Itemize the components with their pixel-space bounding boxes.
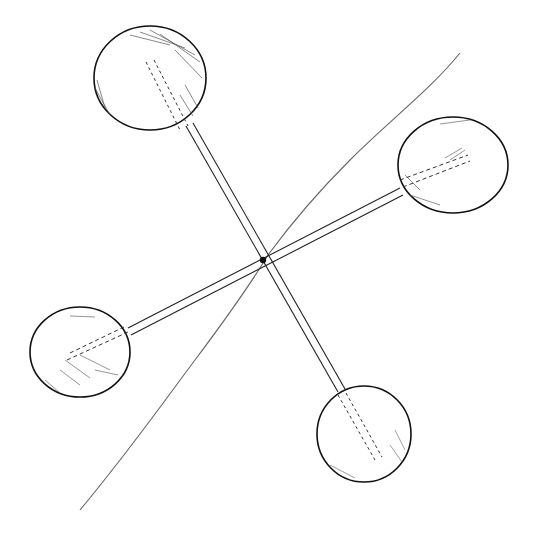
sphere-right [398,117,508,213]
sphere-bottom [317,386,411,482]
sphere-top [94,26,206,130]
sketch-canvas [0,0,535,536]
sphere-rods-drawing [0,0,535,536]
sphere-left [30,307,130,397]
center-joint [260,257,266,263]
